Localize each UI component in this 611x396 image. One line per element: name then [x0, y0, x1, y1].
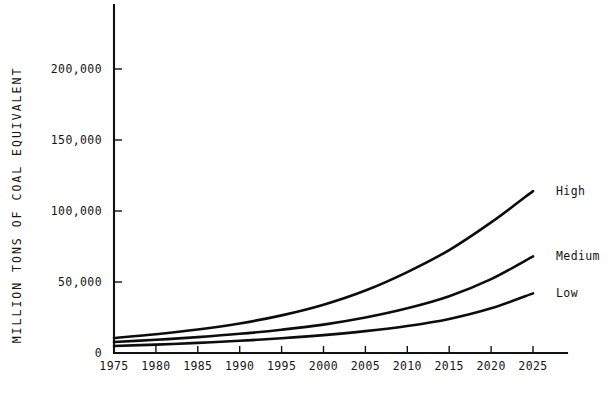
x-axis-tick-label: 1990: [225, 359, 254, 373]
y-axis-tick-label: 200,000: [51, 62, 102, 76]
x-axis-tick-label: 1985: [183, 359, 212, 373]
x-axis-tick-label: 2020: [476, 359, 505, 373]
x-axis-tick-label: 2025: [518, 359, 547, 373]
series-label-medium: Medium: [556, 249, 600, 263]
y-axis-tick-label: 50,000: [58, 275, 102, 289]
series-lines: [114, 191, 533, 346]
x-axis-ticks: 1975198019851990199520002005201020152020…: [99, 346, 547, 373]
y-axis-tick-label: 100,000: [51, 204, 102, 218]
x-axis-tick-label: 2005: [351, 359, 380, 373]
series-line-high: [114, 191, 533, 338]
x-axis-tick-label: 2010: [393, 359, 422, 373]
x-axis-tick-label: 1995: [267, 359, 296, 373]
y-axis-tick-label: 0: [95, 346, 102, 360]
y-axis-title-group: MILLION TONS OF COAL EQUIVALENT: [10, 67, 24, 344]
axes-group: [114, 5, 567, 353]
x-axis-tick-label: 2015: [435, 359, 464, 373]
y-axis-title: MILLION TONS OF COAL EQUIVALENT: [10, 67, 24, 344]
x-axis-tick-label: 1975: [99, 359, 128, 373]
series-label-high: High: [556, 184, 585, 198]
y-axis-tick-label: 150,000: [51, 133, 102, 147]
chart-canvas: MILLION TONS OF COAL EQUIVALENT 050,0001…: [0, 0, 611, 396]
series-label-low: Low: [556, 286, 578, 300]
chart-figure: MILLION TONS OF COAL EQUIVALENT 050,0001…: [0, 0, 611, 396]
series-labels: HighMediumLow: [556, 184, 600, 300]
x-axis-tick-label: 2000: [309, 359, 338, 373]
series-line-medium: [114, 256, 533, 342]
x-axis-tick-label: 1980: [141, 359, 170, 373]
y-axis-ticks: 050,000100,000150,000200,000: [51, 62, 122, 360]
